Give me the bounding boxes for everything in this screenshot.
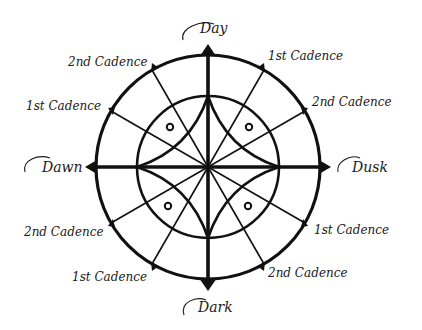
label-dark: Dark: [197, 299, 233, 315]
label-day: Day: [199, 20, 229, 36]
label-cadence-upper-right-outer: 1st Cadence: [268, 49, 343, 63]
label-cadence-lower-right-inner: 1st Cadence: [314, 223, 389, 237]
label-cadence-lower-left-inner: 2nd Cadence: [23, 225, 104, 239]
day-cycle-wheel: Day Dawn Dusk Dark 2nd Cadence 1st Caden…: [0, 0, 422, 330]
label-cadence-upper-right-inner: 2nd Cadence: [311, 95, 392, 109]
small-circle-ul: [167, 124, 173, 130]
small-circle-ur: [246, 124, 252, 130]
label-cadence-upper-left-outer: 2nd Cadence: [67, 55, 148, 69]
marker-left-icon: [85, 160, 97, 174]
marker-bottom-icon: [199, 278, 217, 291]
small-circle-ll: [165, 203, 171, 209]
label-dusk: Dusk: [351, 159, 388, 175]
label-cadence-lower-right-outer: 2nd Cadence: [267, 266, 348, 280]
label-cadence-lower-left-outer: 1st Cadence: [72, 270, 147, 284]
marker-top-icon: [200, 44, 216, 56]
marker-right-icon: [319, 160, 331, 174]
label-dawn: Dawn: [41, 159, 83, 175]
small-circle-lr: [245, 203, 251, 209]
label-cadence-upper-left-inner: 1st Cadence: [26, 99, 101, 113]
